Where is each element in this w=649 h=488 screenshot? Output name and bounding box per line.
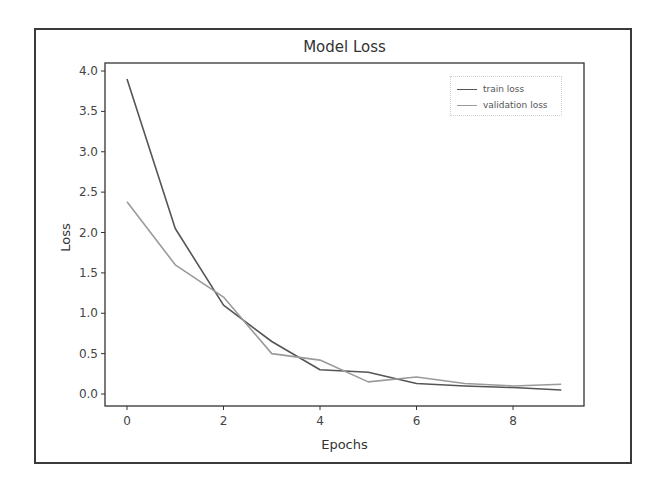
x-tick-label: 8: [509, 414, 517, 428]
y-tick-label: 2.5: [79, 185, 98, 199]
legend-swatch-validation: [457, 105, 477, 106]
legend-label-train: train loss: [483, 84, 524, 94]
y-tick-label: 1.0: [79, 306, 98, 320]
y-axis-label: Loss: [58, 213, 73, 263]
x-tick-label: 2: [220, 414, 228, 428]
y-tick-label: 3.5: [79, 104, 98, 118]
legend-item-validation: validation loss: [457, 98, 548, 112]
y-tick-label: 1.5: [79, 266, 98, 280]
legend-item-train: train loss: [457, 82, 524, 96]
y-tick-label: 2.0: [79, 226, 98, 240]
x-tick-label: 6: [413, 414, 421, 428]
y-tick-label: 0.5: [79, 347, 98, 361]
legend: train loss validation loss: [450, 76, 562, 116]
y-tick-label: 3.0: [79, 145, 98, 159]
plot-area: 0.00.51.01.52.02.53.03.54.0 02468: [0, 0, 649, 488]
x-tick-label: 0: [123, 414, 131, 428]
legend-label-validation: validation loss: [483, 100, 548, 110]
y-axis-ticks: 0.00.51.01.52.02.53.03.54.0: [79, 64, 105, 401]
y-tick-label: 4.0: [79, 64, 98, 78]
x-axis-label: Epochs: [105, 437, 584, 452]
legend-swatch-train: [457, 89, 477, 90]
x-tick-label: 4: [316, 414, 324, 428]
y-tick-label: 0.0: [79, 387, 98, 401]
x-axis-ticks: 02468: [123, 406, 517, 428]
